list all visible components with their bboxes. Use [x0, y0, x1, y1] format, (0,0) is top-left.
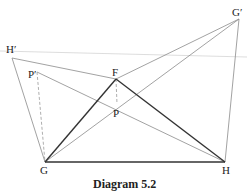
geometry-figure: H′ G′ F P P′ G H Diagram 5.2: [0, 0, 247, 191]
label-H-prime: H′: [6, 43, 16, 55]
label-G: G: [40, 164, 48, 176]
dashed-lines: [37, 72, 117, 162]
line-Pp-H: [37, 72, 225, 162]
label-P: P: [113, 107, 119, 119]
main-triangle: [45, 79, 225, 162]
label-G-prime: G′: [232, 6, 242, 18]
line-G-Gp: [45, 19, 239, 162]
diagram-5-2: H′ G′ F P P′ G H Diagram 5.2: [0, 0, 247, 191]
horizon-line: [0, 51, 247, 57]
line-G-F: [45, 79, 116, 162]
construction-lines: [12, 19, 239, 162]
diagram-caption: Diagram 5.2: [93, 177, 156, 191]
line-F-H: [116, 79, 225, 162]
line-F-Gp: [116, 19, 239, 79]
label-H: H: [222, 164, 230, 176]
label-P-prime: P′: [28, 68, 37, 80]
label-F: F: [112, 66, 118, 78]
line-Gp-H: [225, 19, 239, 162]
line-F-P-dashed: [116, 79, 117, 104]
